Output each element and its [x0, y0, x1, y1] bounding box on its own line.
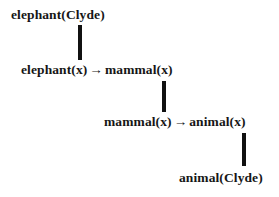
rightwards-arrow-icon: → — [172, 114, 190, 129]
rightwards-arrow-icon: → — [87, 62, 105, 77]
connector-rule2-to-conclusion — [242, 133, 246, 166]
node-text-right: mammal(x) — [105, 62, 173, 77]
node-conclusion-animal-clyde: animal(Clyde) — [179, 170, 263, 185]
node-rule-mammal-animal: mammal(x)→animal(x) — [104, 114, 246, 129]
node-text-right: animal(x) — [189, 114, 245, 129]
node-text-left: animal(Clyde) — [179, 170, 263, 185]
connector-rule1-to-rule2 — [162, 81, 166, 112]
connector-premise-to-rule1 — [78, 25, 82, 60]
node-text-left: elephant(x) — [21, 62, 87, 77]
node-text-left: mammal(x) — [104, 114, 172, 129]
inference-chain-diagram: elephant(Clyde) elephant(x)→mammal(x) ma… — [0, 0, 279, 197]
node-text-left: elephant(Clyde) — [11, 7, 105, 22]
node-rule-elephant-mammal: elephant(x)→mammal(x) — [21, 62, 173, 77]
node-premise-elephant-clyde: elephant(Clyde) — [11, 7, 105, 22]
